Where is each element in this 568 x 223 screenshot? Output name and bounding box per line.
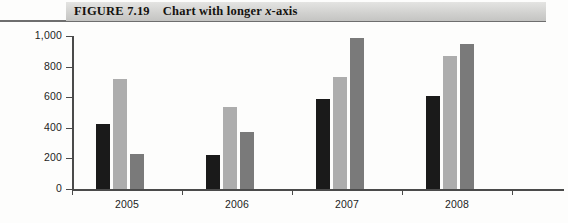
bar — [333, 77, 347, 189]
bar — [130, 154, 144, 189]
bar — [426, 96, 440, 189]
bar — [96, 124, 110, 189]
x-axis-tick — [292, 189, 293, 195]
figure-title-plain: Chart with longer — [163, 4, 265, 18]
x-axis-tick — [402, 189, 403, 195]
bar-chart: 02004006008001,000 2005200620072008 — [0, 26, 568, 223]
x-axis-line — [72, 189, 564, 191]
figure-caption: FIGURE 7.19Chart with longer x-axis — [74, 3, 298, 20]
x-axis-tick-label: 2008 — [427, 198, 487, 210]
bar — [223, 107, 237, 189]
bar — [113, 79, 127, 189]
x-axis-tick-label: 2006 — [207, 198, 267, 210]
bar — [350, 38, 364, 189]
figure-title-tail: -axis — [272, 4, 298, 18]
bar — [240, 132, 254, 189]
bars-layer — [0, 26, 568, 189]
bar — [206, 155, 220, 189]
x-axis-tick — [512, 189, 513, 195]
x-axis-tick — [72, 189, 73, 195]
bar — [443, 56, 457, 189]
x-axis-tick-label: 2005 — [97, 198, 157, 210]
figure-number: FIGURE 7.19 — [74, 4, 150, 18]
bar — [460, 44, 474, 189]
x-axis-tick — [182, 189, 183, 195]
x-axis-tick-label: 2007 — [317, 198, 377, 210]
bar — [316, 99, 330, 189]
